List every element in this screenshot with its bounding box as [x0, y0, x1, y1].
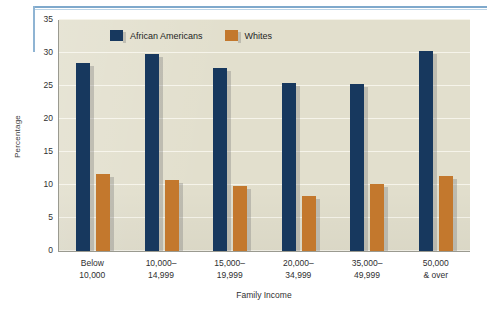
bar-group: [128, 20, 197, 251]
bar: [419, 51, 433, 251]
y-tick-label: 35: [44, 14, 53, 24]
bar-group: [333, 20, 402, 251]
plot-area: 05101520253035: [58, 20, 470, 252]
bar-group: [196, 20, 265, 251]
x-tick-label-line: 34,999: [264, 270, 333, 282]
x-tick-label-line: 35,000–: [333, 258, 402, 270]
legend-label: African Americans: [130, 31, 203, 41]
x-tick-label-line: 15,000–: [195, 258, 264, 270]
bar: [213, 68, 227, 251]
x-tick-label-line: 19,999: [195, 270, 264, 282]
x-tick-label-line: Below: [58, 258, 127, 270]
y-tick-label: 30: [44, 47, 53, 57]
x-tick-label-line: & over: [401, 270, 470, 282]
x-tick-label: 50,000& over: [401, 258, 470, 281]
y-tick-label: 20: [44, 113, 53, 123]
y-tick-label: 5: [48, 212, 53, 222]
page-top-rule-thin: [34, 9, 487, 10]
x-tick-label-line: 50,000: [401, 258, 470, 270]
y-tick-label: 15: [44, 146, 53, 156]
bar: [145, 54, 159, 251]
y-tick-label: 10: [44, 179, 53, 189]
y-tick-label: 0: [48, 245, 53, 255]
x-tick-label: 20,000–34,999: [264, 258, 333, 281]
x-tick-label-line: 14,999: [127, 270, 196, 282]
legend-label: Whites: [245, 31, 273, 41]
bar: [370, 184, 384, 251]
bar: [96, 174, 110, 251]
x-axis-tick-labels: Below10,00010,000–14,99915,000–19,99920,…: [58, 258, 470, 281]
y-tick-label: 25: [44, 80, 53, 90]
bar-group: [265, 20, 334, 251]
chart-legend: African AmericansWhites: [110, 30, 272, 41]
y-axis-title: Percentage: [13, 92, 22, 182]
bar: [165, 180, 179, 251]
x-tick-label-line: 49,999: [333, 270, 402, 282]
bar: [76, 63, 90, 251]
legend-swatch-icon: [225, 30, 238, 41]
bar-group: [402, 20, 471, 251]
bar-chart-figure: Percentage 05101520253035 African Americ…: [0, 12, 487, 327]
bar: [282, 83, 296, 251]
legend-item: Whites: [225, 30, 273, 41]
x-tick-label: 15,000–19,999: [195, 258, 264, 281]
x-tick-label: 35,000–49,999: [333, 258, 402, 281]
x-tick-label-line: 20,000–: [264, 258, 333, 270]
bar: [350, 84, 364, 251]
page-top-rule: [34, 6, 487, 8]
legend-item: African Americans: [110, 30, 203, 41]
bar: [233, 186, 247, 251]
bar-groups: [59, 20, 470, 251]
bar-group: [59, 20, 128, 251]
legend-swatch-icon: [110, 30, 123, 41]
bar: [302, 196, 316, 251]
x-tick-label: 10,000–14,999: [127, 258, 196, 281]
x-tick-label: Below10,000: [58, 258, 127, 281]
x-axis-title: Family Income: [58, 290, 470, 300]
x-tick-label-line: 10,000–: [127, 258, 196, 270]
bar: [439, 176, 453, 251]
x-tick-label-line: 10,000: [58, 270, 127, 282]
